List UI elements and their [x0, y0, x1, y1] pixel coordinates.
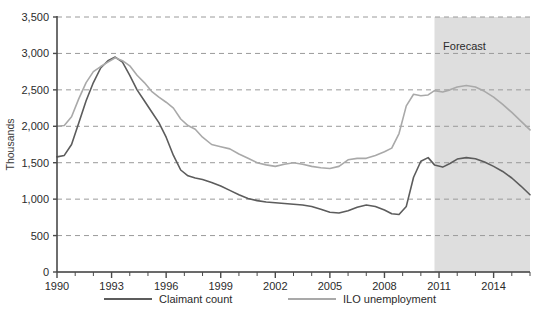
x-axis-ticks: 199019931996199920022005200820112014	[45, 272, 530, 292]
x-tick-label: 2008	[372, 280, 396, 292]
y-tick-label: 500	[31, 230, 49, 242]
legend-label-claimant-count: Claimant count	[159, 293, 232, 305]
x-tick-label: 2014	[481, 280, 505, 292]
y-tick-label: 0	[43, 266, 49, 278]
y-tick-label: 1,000	[21, 193, 49, 205]
x-tick-label: 1999	[208, 280, 232, 292]
x-tick-label: 2011	[427, 280, 451, 292]
y-tick-label: 1,500	[21, 157, 49, 169]
unemployment-line-chart: 05001,0001,5002,0002,5003,0003,500199019…	[0, 0, 541, 315]
y-tick-label: 2,000	[21, 120, 49, 132]
y-axis-ticks: 05001,0001,5002,0002,5003,0003,500	[21, 11, 57, 278]
x-tick-label: 2005	[318, 280, 342, 292]
x-tick-label: 1993	[99, 280, 123, 292]
y-tick-label: 3,000	[21, 47, 49, 59]
x-tick-label: 2002	[263, 280, 287, 292]
y-axis-title: Thousands	[4, 119, 16, 171]
legend-label-ilo-unemployment: ILO unemployment	[343, 293, 436, 305]
y-tick-label: 2,500	[21, 84, 49, 96]
x-tick-label: 1990	[45, 280, 69, 292]
chart-legend: Claimant countILO unemployment	[104, 293, 436, 305]
x-tick-label: 1996	[154, 280, 178, 292]
y-tick-label: 3,500	[21, 11, 49, 23]
forecast-label: Forecast	[443, 40, 486, 52]
forecast-shaded-region	[434, 17, 530, 272]
chart-canvas: 05001,0001,5002,0002,5003,0003,500199019…	[0, 0, 541, 315]
